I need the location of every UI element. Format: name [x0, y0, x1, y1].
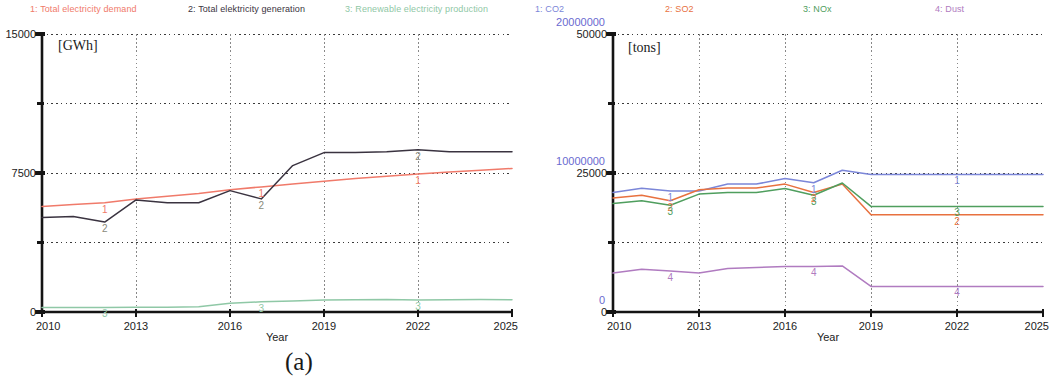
series-line	[42, 168, 512, 206]
series-marker-label: 1	[102, 204, 108, 215]
x-axis-title-a: Year	[266, 331, 289, 343]
y-unit-label-a: [GWh]	[58, 38, 98, 53]
y-tick-label: 50000	[576, 28, 607, 40]
series-marker-label: 3	[668, 206, 674, 217]
series-marker-label: 1	[259, 188, 265, 199]
y-tick-label: 0	[30, 306, 36, 318]
series-marker-label: 2	[102, 223, 108, 234]
series-marker-label: 3	[954, 207, 960, 218]
series-marker-label: 4	[811, 267, 817, 278]
series-marker-label: 4	[954, 287, 960, 298]
series-line	[42, 299, 512, 307]
gridlines-b	[613, 34, 1043, 312]
y-tick-label-secondary: 0	[599, 294, 605, 306]
series-marker-label: 2	[259, 200, 265, 211]
y-tick-label-secondary: 10000000	[556, 155, 605, 167]
x-tick-label: 2013	[124, 320, 148, 332]
series-markers-a: 111222333	[102, 151, 421, 320]
y-tick-label-secondary: 20000000	[556, 16, 605, 28]
panel-b: 1: CO2 2: SO2 3: NOx 4: Dust [tons] 5000…	[525, 0, 1050, 384]
series-marker-label: 4	[668, 272, 674, 283]
y-tick-label: 25000	[576, 167, 607, 179]
x-tick-label: 2022	[945, 320, 969, 332]
x-axis-title-b: Year	[817, 331, 840, 343]
figure-container: 1: Total electricity demand 2: Total ele…	[0, 0, 1050, 384]
y-tick-label: 0	[601, 306, 607, 318]
x-tick-label: 2025	[494, 320, 518, 332]
y-tick-label: 7500	[12, 167, 36, 179]
x-tick-label: 2019	[312, 320, 336, 332]
y-tick-marks-a	[35, 34, 45, 312]
series-line	[613, 266, 1043, 287]
x-tick-label: 2022	[406, 320, 430, 332]
series-marker-label: 1	[954, 175, 960, 186]
y-tick-label: 15000	[5, 28, 36, 40]
series-line	[613, 183, 1043, 206]
y-tick-labels-a: 1500075000	[5, 28, 36, 318]
caption-a: (a)	[285, 348, 313, 376]
y-unit-label-b: [tons]	[628, 40, 661, 55]
x-tick-label: 2016	[218, 320, 242, 332]
x-tick-label: 2019	[859, 320, 883, 332]
x-tick-label: 2010	[607, 320, 631, 332]
series-marker-label: 2	[415, 151, 421, 162]
x-tick-label: 2016	[773, 320, 797, 332]
series-marker-label: 3	[811, 196, 817, 207]
series-group-b	[613, 170, 1043, 286]
series-marker-label: 1	[415, 175, 421, 186]
y-tick-labels-primary-b: 50000250000	[576, 28, 607, 318]
x-tick-label: 2010	[36, 320, 60, 332]
x-tick-label: 2025	[1025, 320, 1049, 332]
x-tick-label: 2013	[687, 320, 711, 332]
plot-area-b: [tons] 50000250000 20000000100000000 201…	[525, 0, 1050, 348]
series-marker-label: 3	[415, 301, 421, 312]
plot-area-a: [GWh] 1500075000 20102013201620192022202…	[0, 0, 525, 348]
panel-a: 1: Total electricity demand 2: Total ele…	[0, 0, 525, 384]
y-tick-marks-b	[606, 34, 616, 312]
y-tick-labels-secondary-b: 20000000100000000	[556, 16, 605, 306]
series-marker-label: 3	[102, 308, 108, 319]
series-marker-label: 3	[259, 303, 265, 314]
